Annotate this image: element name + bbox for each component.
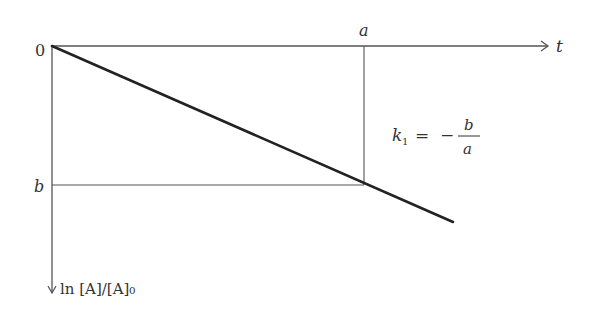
- b-marker-label: b: [34, 177, 44, 196]
- t-axis-label: t: [556, 36, 563, 56]
- origin-label: 0: [35, 41, 45, 60]
- first-order-kinetics-diagram: t ln [A]/[A]₀ 0 a b k 1 = − b a: [0, 0, 594, 320]
- a-marker-label: a: [359, 21, 369, 40]
- formula-equals: =: [415, 125, 429, 145]
- formula-k: k: [392, 125, 402, 145]
- formula-denominator: a: [463, 140, 472, 158]
- rate-constant-formula: k 1 = − b a: [392, 116, 480, 158]
- ln-axis: [48, 46, 56, 293]
- t-axis: [52, 41, 548, 51]
- formula-minus: −: [440, 125, 454, 145]
- formula-k-subscript: 1: [402, 136, 408, 147]
- ln-axis-label: ln [A]/[A]₀: [60, 280, 135, 298]
- formula-numerator: b: [464, 116, 474, 134]
